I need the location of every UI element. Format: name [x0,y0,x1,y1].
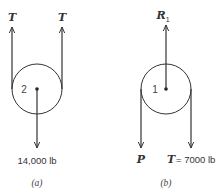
caption-a: (a) [31,178,42,189]
reaction-label-subscript: 1 [166,16,170,23]
pulley-1-label: 1 [152,84,158,95]
tension-label-left: T [8,11,17,24]
caption-b: (b) [160,178,171,189]
tension-label-right: T [58,11,67,24]
force-p-label: P [136,153,146,166]
pulley-2-label: 2 [21,84,27,95]
reaction-label: R1 [155,9,169,23]
tension-value-b: = 7000 lb [176,154,215,165]
load-label: 14,000 lb [17,155,56,166]
tension-label-b: T [167,153,176,166]
panel-b: R1 1 P T = 7000 lb (b) [136,9,216,189]
panel-a: T T 2 14,000 lb (a) [8,11,67,189]
reaction-label-main: R [155,9,165,22]
pulley-free-body-diagrams: T T 2 14,000 lb (a) R1 1 P T = 7000 lb (… [0,0,217,190]
